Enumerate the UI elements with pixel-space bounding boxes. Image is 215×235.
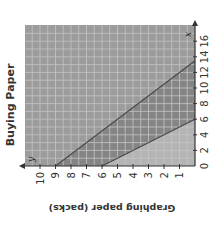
y-tick-label: 3 <box>143 172 154 178</box>
y-tick-label: 2 <box>159 172 170 178</box>
x-tick-label: 10 <box>199 82 210 95</box>
x-axis-arrow-icon <box>192 20 198 26</box>
x-tick-label: 6 <box>199 116 210 122</box>
y-tick-label: 4 <box>128 172 139 178</box>
y-tick-label: 9 <box>50 172 61 178</box>
x-tick-label: 4 <box>199 132 210 138</box>
plot-area <box>19 20 198 169</box>
y-axis-variable: y <box>26 156 36 163</box>
x-tick-label: 14 <box>199 50 210 63</box>
y-axis-ticks: 12345678910 <box>35 164 186 185</box>
y-tick-label: 6 <box>97 172 108 178</box>
x-tick-label: 8 <box>199 100 210 106</box>
x-tick-label: 0 <box>199 163 210 169</box>
y-axis-arrow-icon <box>19 163 25 169</box>
x-tick-label: 16 <box>199 35 210 48</box>
chart-rotated-container: Buying Paper Graphing paper (packs) y x … <box>0 0 215 235</box>
y-tick-label: 7 <box>81 172 92 178</box>
x-tick-label: 2 <box>199 147 210 153</box>
chart-title: Buying Paper <box>4 63 17 146</box>
y-tick-label: 8 <box>66 172 77 178</box>
chart-canvas: Buying Paper Graphing paper (packs) y x … <box>0 0 215 235</box>
x-axis-variable: x <box>183 32 193 37</box>
y-tick-label: 1 <box>174 172 185 178</box>
y-tick-label: 5 <box>112 172 123 178</box>
y-tick-label: 10 <box>35 172 46 185</box>
y-axis-label: Graphing paper (packs) <box>49 203 176 214</box>
x-tick-label: 12 <box>199 66 210 79</box>
